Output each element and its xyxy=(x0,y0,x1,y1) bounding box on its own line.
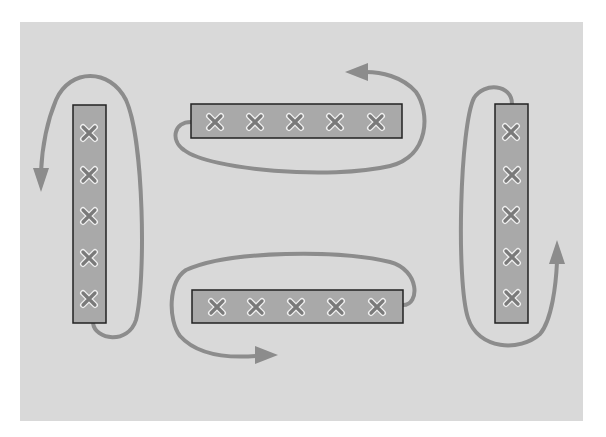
x-marker-icon xyxy=(83,127,95,139)
x-marker-icon xyxy=(505,209,517,221)
x-marker-icon xyxy=(83,210,95,222)
x-marker-icon xyxy=(506,251,518,263)
top-bar xyxy=(191,104,402,138)
x-marker-icon xyxy=(329,116,341,128)
x-marker-icon xyxy=(211,301,223,313)
x-marker-icon xyxy=(506,292,518,304)
arrowhead-icon xyxy=(345,63,368,81)
arrowhead-icon xyxy=(549,240,565,264)
bottom-bar xyxy=(192,290,403,323)
x-marker-icon xyxy=(83,293,95,305)
arrowhead-icon xyxy=(255,346,278,364)
x-marker-icon xyxy=(83,169,95,181)
x-marker-icon xyxy=(505,126,517,138)
x-marker-icon xyxy=(289,116,301,128)
x-marker-icon xyxy=(371,301,383,313)
x-marker-icon xyxy=(209,116,221,128)
rotation-diagram xyxy=(0,0,606,437)
x-marker-icon xyxy=(250,301,262,313)
x-marker-icon xyxy=(83,252,95,264)
left-bar xyxy=(73,105,106,323)
arrowhead-icon xyxy=(33,168,49,192)
right-bar xyxy=(495,104,528,323)
x-marker-icon xyxy=(506,169,518,181)
x-marker-icon xyxy=(290,301,302,313)
x-marker-icon xyxy=(330,301,342,313)
x-marker-icon xyxy=(370,116,382,128)
x-marker-icon xyxy=(249,116,261,128)
